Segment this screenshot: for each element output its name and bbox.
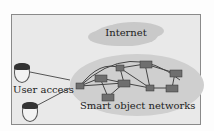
node-icon xyxy=(140,61,152,68)
user-face-icon xyxy=(14,63,30,83)
node-icon xyxy=(146,85,154,91)
user-face-icon xyxy=(22,102,38,122)
node-icon xyxy=(95,75,107,82)
node-icon xyxy=(170,70,182,77)
node-icon xyxy=(76,83,84,89)
user-access-label: User access xyxy=(13,84,74,95)
node-icon xyxy=(116,65,124,71)
network-label: Smart object networks xyxy=(80,100,195,111)
node-icon xyxy=(166,85,178,92)
node-icon xyxy=(118,80,130,87)
